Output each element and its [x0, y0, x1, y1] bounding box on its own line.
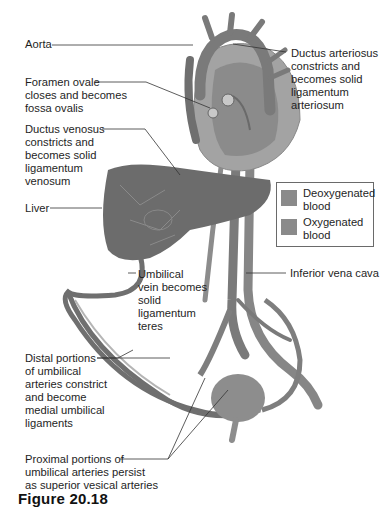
label-ductus-arteriosus: Ductus arteriosus constricts and becomes…	[291, 47, 378, 112]
label-umbilical-vein: Umbilical vein becomes solid ligamentum …	[138, 268, 207, 333]
label-proximal-umbilical-arteries: Proximal portions of umbilical arteries …	[25, 453, 158, 492]
label-liver: Liver	[25, 202, 49, 215]
bladder	[211, 374, 265, 440]
oxygenated-swatch	[281, 219, 297, 235]
label-aorta: Aorta	[25, 38, 52, 51]
label-foramen-ovale: Foramen ovale closes and becomes fossa o…	[25, 76, 127, 115]
heart	[194, 44, 300, 171]
label-distal-umbilical-arteries: Distal portions of umbilical arteries co…	[25, 352, 107, 430]
legend-label: Deoxygenated blood	[303, 187, 375, 213]
deoxygenated-swatch	[281, 190, 297, 206]
label-ductus-venosus: Ductus venosus constricts and becomes so…	[25, 123, 105, 188]
figure-caption: Figure 20.18	[18, 490, 108, 507]
legend: Deoxygenated blood Oxygenated blood	[276, 182, 374, 247]
legend-item-oxygenated: Oxygenated blood	[281, 216, 363, 242]
legend-label: Oxygenated blood	[303, 216, 363, 242]
label-inferior-vena-cava: Inferior vena cava	[290, 267, 379, 280]
legend-item-deoxygenated: Deoxygenated blood	[281, 187, 375, 213]
